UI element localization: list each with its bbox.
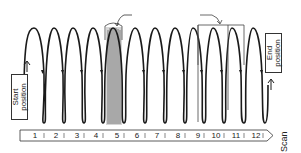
end-position-label: End position bbox=[266, 33, 282, 73]
scale-tick-6: 6 bbox=[135, 131, 139, 140]
end-position-box: End position bbox=[265, 33, 282, 73]
scale-tick-2: 2 bbox=[54, 131, 58, 140]
scale-tick-10: 10 bbox=[212, 131, 221, 140]
end-arrow-icon bbox=[268, 79, 274, 90]
scale-tick-3: 3 bbox=[75, 131, 79, 140]
scale-tick-7: 7 bbox=[155, 131, 159, 140]
start-position-label: Start position bbox=[12, 74, 28, 120]
end-label-line2: position bbox=[274, 33, 282, 73]
scale-tick-1: 1 bbox=[33, 131, 37, 140]
scale-tick-8: 8 bbox=[176, 131, 180, 140]
direction-arrows bbox=[41, 70, 263, 74]
scale-tick-5: 5 bbox=[115, 131, 119, 140]
scale-tick-11: 11 bbox=[232, 131, 240, 140]
start-position-box: Start position bbox=[11, 74, 28, 120]
scale-tick-4: 4 bbox=[94, 131, 98, 140]
scale-tick-12: 12 bbox=[252, 131, 261, 140]
scan-wave-path bbox=[24, 28, 268, 123]
scale-tick-9: 9 bbox=[196, 131, 200, 140]
scan-axis-label: Scan bbox=[279, 131, 289, 152]
start-label-line2: position bbox=[20, 74, 28, 120]
dense-region-callout bbox=[115, 15, 132, 26]
